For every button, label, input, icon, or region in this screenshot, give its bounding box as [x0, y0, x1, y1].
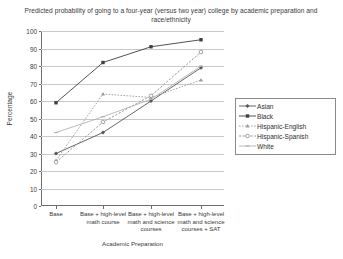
series-line: [56, 66, 201, 133]
data-point: [199, 38, 202, 41]
legend-item-black[interactable]: Black: [239, 111, 332, 121]
plot-area: 0102030405060708090100 BaseBase + high-l…: [41, 31, 224, 206]
y-tick-label: 80: [30, 63, 37, 70]
x-tick-label: Base + high-level math and science cours…: [174, 211, 228, 234]
series-line: [56, 80, 201, 161]
series-white: [54, 65, 203, 133]
data-point: [54, 132, 58, 133]
x-tick-label: Base + high-level math and science cours…: [124, 211, 178, 234]
legend-label: Hispanic-English: [257, 123, 306, 130]
legend-label: Hispanic-Spanish: [257, 133, 308, 140]
legend-item-hispanic-spanish[interactable]: Hispanic-Spanish: [239, 131, 332, 141]
data-point: [101, 92, 105, 96]
legend-marker-icon: [239, 131, 256, 141]
y-axis-label: Percentage: [6, 79, 13, 139]
legend-marker-icon: [239, 121, 256, 131]
series-layer: [41, 31, 224, 206]
legend-marker-icon: [239, 141, 256, 151]
x-tick-mark: [103, 206, 104, 209]
x-tick-mark: [201, 206, 202, 209]
data-point: [246, 145, 250, 146]
data-point: [246, 114, 249, 117]
chart-title: Predicted probability of going to a four…: [18, 6, 324, 24]
data-point: [54, 151, 58, 155]
y-tick-label: 20: [30, 168, 37, 175]
data-point: [246, 104, 250, 108]
legend-label: Black: [257, 113, 273, 120]
x-tick-mark: [151, 206, 152, 209]
data-point: [149, 45, 152, 48]
data-point: [101, 116, 105, 117]
y-tick-label: 40: [30, 133, 37, 140]
legend-label: Asian: [257, 103, 274, 110]
y-tick-mark: [39, 206, 41, 207]
x-tick-label: Base: [29, 211, 83, 219]
data-point: [199, 78, 203, 82]
data-point: [246, 134, 250, 138]
data-point: [149, 94, 153, 98]
y-tick-label: 100: [26, 28, 37, 35]
legend-label: White: [257, 143, 274, 150]
legend-item-hispanic-english[interactable]: Hispanic-English: [239, 121, 332, 131]
y-tick-label: 0: [33, 203, 37, 210]
y-tick-label: 50: [30, 115, 37, 122]
legend-item-white[interactable]: White: [239, 141, 332, 151]
x-tick-label: Base + high-level math course: [76, 211, 130, 226]
chart-container: Predicted probability of going to a four…: [0, 0, 343, 259]
data-point: [199, 50, 203, 54]
y-tick-label: 60: [30, 98, 37, 105]
y-tick-label: 10: [30, 185, 37, 192]
legend: AsianBlackHispanic-EnglishHispanic-Spani…: [235, 98, 336, 155]
data-point: [101, 61, 104, 64]
y-tick-label: 30: [30, 150, 37, 157]
legend-item-asian[interactable]: Asian: [239, 101, 332, 111]
data-point: [199, 65, 203, 66]
data-point: [54, 160, 58, 164]
x-tick-mark: [56, 206, 57, 209]
data-point: [54, 101, 57, 104]
y-tick-label: 70: [30, 80, 37, 87]
series-hispanic-english: [54, 78, 203, 162]
data-point: [149, 99, 153, 100]
legend-marker-icon: [239, 101, 256, 111]
data-point: [101, 120, 105, 124]
series-black: [54, 38, 202, 104]
x-axis-label: Academic Preparation: [40, 240, 225, 247]
y-tick-label: 90: [30, 45, 37, 52]
data-point: [101, 130, 105, 134]
legend-marker-icon: [239, 111, 256, 121]
